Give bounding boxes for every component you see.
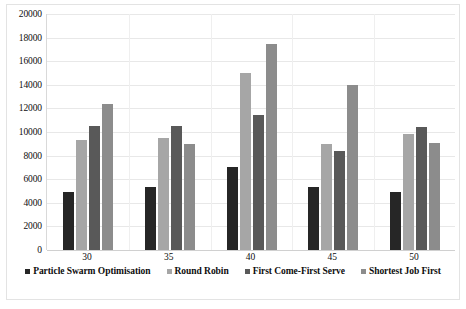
y-axis-tick-label: 2000: [23, 221, 42, 231]
legend-swatch-icon: [245, 269, 250, 274]
legend-label: First Come-First Serve: [253, 266, 345, 276]
x-axis-tick-label: 30: [82, 252, 92, 262]
bar: [158, 138, 169, 250]
chart-legend: Particle Swarm OptimisationRound RobinFi…: [0, 266, 466, 276]
gridline: [47, 250, 455, 251]
x-axis-labels: 3035404550: [46, 252, 455, 266]
legend-item[interactable]: Round Robin: [167, 266, 229, 276]
bar: [416, 127, 427, 250]
gridline: [47, 85, 455, 86]
bar: [321, 144, 332, 250]
legend-label: Shortest Job First: [369, 266, 441, 276]
y-axis-tick-label: 6000: [23, 174, 42, 184]
bar: [171, 126, 182, 250]
y-axis-tick-label: 14000: [19, 80, 42, 90]
bar: [390, 192, 401, 250]
bar: [240, 73, 251, 250]
bar: [89, 126, 100, 250]
bar: [308, 187, 319, 250]
y-axis-tick-label: 20000: [19, 9, 42, 19]
category-separator: [211, 14, 212, 250]
x-axis-tick-label: 35: [164, 252, 174, 262]
category-separator: [129, 14, 130, 250]
gridline: [47, 14, 455, 15]
y-axis-tick-label: 10000: [19, 127, 42, 137]
y-axis-labels: 0200040006000800010000120001400016000180…: [0, 14, 42, 250]
bar: [227, 167, 238, 250]
y-axis-tick-label: 4000: [23, 198, 42, 208]
y-axis-tick-label: 0: [37, 245, 42, 255]
gridline: [47, 61, 455, 62]
bar: [347, 85, 358, 250]
category-separator: [374, 14, 375, 250]
legend-swatch-icon: [361, 269, 366, 274]
legend-item[interactable]: Shortest Job First: [361, 266, 441, 276]
bar: [102, 104, 113, 250]
legend-item[interactable]: First Come-First Serve: [245, 266, 345, 276]
bar: [266, 44, 277, 250]
legend-label: Particle Swarm Optimisation: [33, 266, 150, 276]
legend-swatch-icon: [167, 269, 172, 274]
category-separator: [292, 14, 293, 250]
bar: [184, 144, 195, 250]
x-axis-tick-label: 45: [328, 252, 338, 262]
bar: [334, 151, 345, 250]
x-axis-tick-label: 40: [246, 252, 256, 262]
legend-item[interactable]: Particle Swarm Optimisation: [25, 266, 150, 276]
y-axis-tick-label: 18000: [19, 33, 42, 43]
plot-area: [46, 14, 455, 250]
legend-swatch-icon: [25, 269, 30, 274]
bar-chart: 0200040006000800010000120001400016000180…: [0, 0, 466, 309]
bar: [145, 187, 156, 250]
bar: [429, 143, 440, 250]
y-axis-tick-label: 16000: [19, 56, 42, 66]
bar: [253, 115, 264, 250]
x-axis-tick-label: 50: [409, 252, 419, 262]
y-axis-tick-label: 12000: [19, 103, 42, 113]
y-axis-tick-label: 8000: [23, 151, 42, 161]
bar: [403, 134, 414, 250]
legend-label: Round Robin: [175, 266, 229, 276]
gridline: [47, 38, 455, 39]
bar: [76, 140, 87, 250]
bar: [63, 192, 74, 250]
